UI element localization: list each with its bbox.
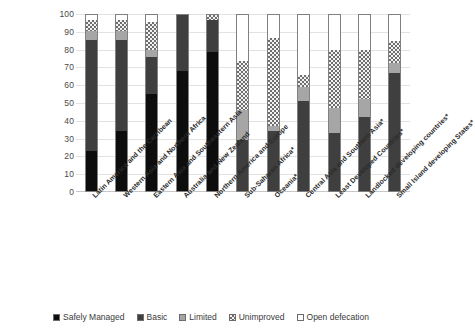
bar-segment-limited: [86, 31, 97, 40]
legend-label: Basic: [147, 312, 168, 322]
x-axis-category-labels: Latin America and the CarribeanWestern A…: [76, 194, 410, 298]
swatch-open-defecation-icon: [297, 314, 304, 321]
bar-segment-open-defecation: [389, 15, 400, 41]
bar-segment-open-defecation: [359, 15, 370, 50]
legend-label: Safely Managed: [63, 312, 124, 322]
legend-item[interactable]: Limited: [179, 312, 216, 322]
bar-segment-unimproved: [298, 75, 309, 87]
y-axis-tick-label: 60: [64, 80, 74, 90]
bar-segment-open-defecation: [329, 15, 340, 50]
bar-segment-unimproved: [237, 61, 248, 110]
stacked-bar[interactable]: [297, 14, 310, 192]
bar-segment-basic: [116, 40, 127, 132]
bar-segment-open-defecation: [268, 15, 279, 38]
bar-segment-unimproved: [146, 22, 157, 50]
legend-item[interactable]: Unimproved: [229, 312, 285, 322]
bar-segment-limited: [389, 63, 400, 74]
y-axis-tick-label: 20: [64, 151, 74, 161]
bar-segment-limited: [116, 31, 127, 40]
bar-segment-unimproved: [389, 41, 400, 62]
bar-segment-limited: [359, 99, 370, 117]
legend-label: Open defecation: [307, 312, 369, 322]
swatch-unimproved-icon: [229, 314, 236, 321]
stacked-bar[interactable]: [85, 14, 98, 192]
y-axis-tick-label: 40: [64, 116, 74, 126]
bar-segment-unimproved: [86, 20, 97, 31]
bar-segment-open-defecation: [298, 15, 309, 75]
bar-segment-unimproved: [329, 50, 340, 108]
bar-segment-open-defecation: [146, 15, 157, 22]
bar-segment-basic: [86, 40, 97, 151]
bar-segment-unimproved: [116, 20, 127, 31]
swatch-limited-icon: [179, 314, 186, 321]
bar-segment-unimproved: [268, 38, 279, 126]
bar-segment-limited: [329, 108, 340, 133]
bar-segment-safely-managed: [86, 151, 97, 191]
y-axis-tick-label: 90: [64, 27, 74, 37]
y-axis-tick-label: 70: [64, 62, 74, 72]
swatch-safely-managed-icon: [53, 314, 60, 321]
bar-segment-unimproved: [359, 50, 370, 99]
bar-segment-basic: [298, 101, 309, 191]
y-axis-tick-label: 0: [69, 187, 74, 197]
y-axis: 0102030405060708090100: [50, 14, 74, 192]
y-axis-tick-label: 30: [64, 134, 74, 144]
swatch-basic-icon: [137, 314, 144, 321]
y-axis-tick-label: 80: [64, 45, 74, 55]
bar-segment-open-defecation: [237, 15, 248, 61]
legend-item[interactable]: Basic: [137, 312, 168, 322]
legend-label: Limited: [189, 312, 216, 322]
bar-segment-limited: [298, 87, 309, 101]
bar-segment-limited: [146, 50, 157, 57]
legend-label: Unimproved: [239, 312, 285, 322]
legend-item[interactable]: Open defecation: [297, 312, 369, 322]
y-axis-tick-label: 10: [64, 169, 74, 179]
bar-slot: [76, 14, 106, 192]
bar-segment-basic: [207, 20, 218, 52]
legend-item[interactable]: Safely Managed: [53, 312, 124, 322]
y-axis-tick-label: 100: [60, 9, 74, 19]
chart-legend: Safely ManagedBasicLimitedUnimprovedOpen…: [0, 308, 422, 326]
bar-segment-basic: [177, 15, 188, 71]
bar-slot: [289, 14, 319, 192]
bar-segment-basic: [146, 57, 157, 94]
y-axis-tick-label: 50: [64, 98, 74, 108]
